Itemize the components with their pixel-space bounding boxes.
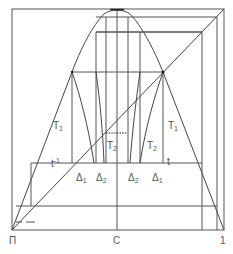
- axis-label-left: П: [9, 236, 16, 246]
- label-delta1-right: Δ1: [152, 173, 163, 184]
- solvus-curve-left-outer: [72, 72, 94, 163]
- label-T1-right: T1: [168, 121, 178, 132]
- point-right: [162, 71, 165, 74]
- label-base: Δ: [152, 172, 159, 183]
- label-base: Δ: [76, 172, 83, 183]
- diagonal-line: [12, 9, 224, 230]
- label-base: Δ: [96, 172, 103, 183]
- label-base: Δ: [128, 172, 135, 183]
- label-sub: 2: [135, 177, 139, 184]
- solvus-curve-right-inner: [130, 72, 140, 163]
- label-base: t: [167, 156, 170, 167]
- label-delta1-left: Δ1: [76, 173, 87, 184]
- label-sup: -1: [54, 157, 60, 164]
- axis-label-right: 1: [220, 236, 226, 246]
- label-delta2-left: Δ2: [96, 173, 107, 184]
- label-t: t: [167, 157, 170, 167]
- label-delta2-right: Δ2: [128, 173, 139, 184]
- label-sub: 1: [159, 177, 163, 184]
- label-sub: 2: [113, 145, 117, 152]
- label-sub: 2: [153, 145, 157, 152]
- label-T2-left: T2: [107, 141, 117, 152]
- label-t-inverse: t-1: [51, 157, 60, 169]
- label-sub: 1: [174, 125, 178, 132]
- label-T2-right: T2: [147, 141, 157, 152]
- solvus-curve-left-inner: [96, 72, 104, 163]
- label-T1-left: T1: [53, 121, 63, 132]
- point-left: [71, 71, 73, 73]
- phase-diagram: [0, 0, 233, 254]
- label-sub: 2: [103, 177, 107, 184]
- label-sub: 1: [83, 177, 87, 184]
- label-sub: 1: [59, 125, 63, 132]
- axis-label-center: С: [113, 236, 120, 246]
